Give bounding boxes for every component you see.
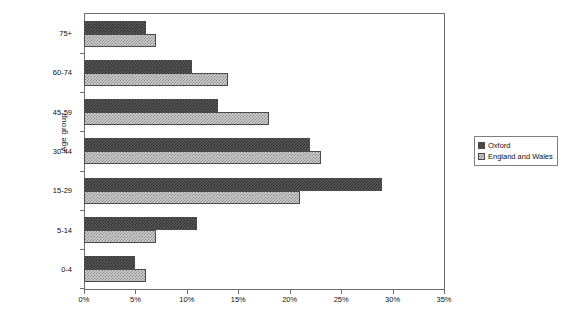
y-axis-tick-label: 30-44 [34,132,78,171]
bar[interactable] [84,73,228,86]
legend-item[interactable]: Oxford [478,140,553,151]
bar[interactable] [84,112,269,125]
bar[interactable] [84,256,135,269]
y-axis-tick-label: 45-59 [34,93,78,132]
bar-slot [84,112,444,125]
bar-slot [84,34,444,47]
bar-slot [84,256,444,269]
bar-group [84,53,444,92]
bar-group [84,210,444,249]
bar[interactable] [84,34,156,47]
bar-slot [84,99,444,112]
bar-slot [84,73,444,86]
y-axis-tick-label: 75+ [34,14,78,53]
bar-group [84,132,444,171]
bar-group [84,171,444,210]
bar-slot [84,60,444,73]
bar[interactable] [84,60,192,73]
bar-slot [84,178,444,191]
x-axis-tick [341,290,342,294]
legend-swatch-icon [478,142,485,149]
bar-slot [84,269,444,282]
bar[interactable] [84,151,321,164]
x-axis-tick [187,290,188,294]
x-axis-tick [135,290,136,294]
bar-chart: Age group 75+ 60-74 45-59 30-44 15-29 5-… [0,0,582,323]
bar[interactable] [84,138,310,151]
bar[interactable] [84,217,197,230]
x-axis-tick [84,290,85,294]
legend-item[interactable]: England and Wales [478,151,553,162]
x-axis-tick-label: 25% [334,295,349,304]
bar[interactable] [84,21,146,34]
x-axis-tick [290,290,291,294]
bar[interactable] [84,99,218,112]
x-axis-tick-label: 5% [130,295,141,304]
y-axis-tick-label: 15-29 [34,171,78,210]
x-axis-tick [393,290,394,294]
bar-groups [84,14,444,289]
bar-slot [84,138,444,151]
legend: Oxford England and Wales [474,136,558,166]
bar[interactable] [84,269,146,282]
bar-slot [84,21,444,34]
y-axis-tick-label: 5-14 [34,210,78,249]
bar-group [84,93,444,132]
bar[interactable] [84,230,156,243]
x-axis-tick-label: 30% [385,295,400,304]
bar[interactable] [84,191,300,204]
y-axis-tick-label: 0-4 [34,250,78,289]
x-axis-tick-label: 35% [436,295,451,304]
bar-slot [84,151,444,164]
y-axis-tick-labels: 75+ 60-74 45-59 30-44 15-29 5-14 0-4 [34,14,78,289]
x-axis-tick-label: 20% [282,295,297,304]
legend-item-label: England and Wales [488,153,553,161]
bar-group [84,250,444,289]
y-axis-tick-label: 60-74 [34,53,78,92]
x-axis-tick-label: 0% [79,295,90,304]
bar-group [84,14,444,53]
x-axis-tick-label: 10% [179,295,194,304]
legend-swatch-icon [478,153,485,160]
x-axis-tick-label: 15% [231,295,246,304]
bar-slot [84,230,444,243]
x-axis-tick-labels: 0%5%10%15%20%25%30%35% [84,295,445,307]
bar-slot [84,217,444,230]
bar-slot [84,191,444,204]
legend-item-label: Oxford [488,142,511,150]
x-axis-tick [238,290,239,294]
bar[interactable] [84,178,382,191]
x-axis-tick [444,290,445,294]
